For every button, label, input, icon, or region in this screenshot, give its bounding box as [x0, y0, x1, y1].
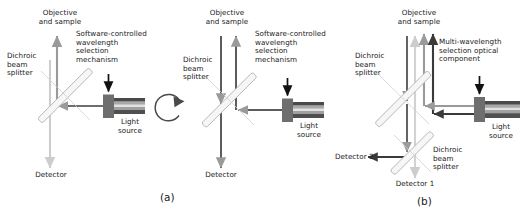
wavelength-selection-block	[103, 95, 114, 119]
label-detector-1: Detector 1	[383, 180, 447, 189]
label-dichroic-beam-splitter: Dichroic beam splitter	[7, 52, 51, 78]
figure-optical-path-diagram: Objective and sample Dichroic beam split…	[0, 0, 529, 221]
light-source-shape	[484, 101, 520, 118]
label-detector: Detector	[193, 171, 249, 180]
dichroic-beam-splitter-2-shape	[390, 131, 434, 175]
light-source-shape	[112, 98, 145, 114]
rotation-arrow-icon	[155, 94, 184, 120]
label-light-source: Light source	[481, 123, 521, 140]
panel-a-rotated: Objective and sample Dichroic beam split…	[183, 0, 353, 221]
caption-panel-b: (b)	[417, 195, 432, 207]
label-wavelength-selection-mechanism: Software-controlled wavelength selection…	[255, 30, 347, 64]
label-dichroic-beam-splitter-1: Dichroic beam splitter	[355, 52, 401, 78]
light-source-shape	[291, 102, 324, 118]
label-dichroic-beam-splitter-2: Dichroic beam splitter	[433, 146, 479, 172]
label-dichroic-beam-splitter: Dichroic beam splitter	[183, 56, 227, 82]
label-detector-2: Detector 2	[335, 153, 365, 162]
label-objective-and-sample: Objective and sample	[22, 9, 98, 26]
wavelength-selection-block	[282, 99, 293, 123]
multi-wavelength-component-block	[474, 97, 485, 122]
label-light-source: Light source	[110, 118, 150, 135]
label-multi-wavelength-component: Multi-wavelength selection optical compo…	[439, 38, 529, 64]
label-light-source: Light source	[289, 122, 329, 139]
label-detector: Detector	[26, 171, 76, 180]
panel-b: Objective and sample Dichroic beam split…	[353, 0, 529, 221]
label-objective-and-sample: Objective and sample	[381, 9, 457, 26]
label-objective-and-sample: Objective and sample	[189, 9, 265, 26]
